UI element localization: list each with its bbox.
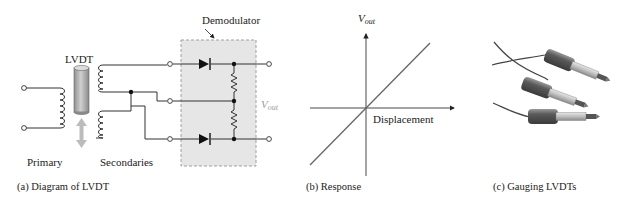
x-axis-label: Displacement — [373, 113, 433, 125]
lvdt-probe-3 — [528, 109, 600, 124]
y-axis-label: Vout — [358, 12, 375, 28]
lvdt-probe-2 — [520, 76, 591, 113]
primary-coil — [60, 88, 65, 128]
vout-main: V — [261, 98, 268, 110]
response-line — [310, 43, 430, 165]
gauging-lvdts-illustration — [492, 42, 613, 124]
demodulator-pointer-arrow — [205, 29, 214, 38]
y-axis-sub: out — [365, 17, 375, 26]
core-movement-arrow-icon — [76, 118, 87, 148]
demodulator-box — [181, 40, 256, 166]
secondary-coil-top — [99, 65, 104, 92]
secondaries-label: Secondaries — [100, 156, 153, 168]
caption-c: (c) Gauging LVDTs — [493, 181, 576, 193]
demodulator-label: Demodulator — [202, 14, 260, 26]
figure-canvas — [0, 0, 641, 202]
caption-a: (a) Diagram of LVDT — [17, 181, 109, 193]
vout-sub: out — [268, 103, 278, 112]
secondary-coil-bottom — [99, 111, 104, 138]
caption-b: (b) Response — [306, 181, 361, 193]
response-chart — [310, 34, 454, 176]
lvdt-core — [74, 65, 89, 114]
lvdt-probe-1 — [543, 48, 613, 87]
primary-label: Primary — [27, 156, 62, 168]
lvdt-diagram — [22, 29, 272, 166]
y-axis-main: V — [358, 12, 365, 24]
lvdt-label: LVDT — [65, 53, 93, 65]
vout-label: Vout — [261, 98, 278, 114]
